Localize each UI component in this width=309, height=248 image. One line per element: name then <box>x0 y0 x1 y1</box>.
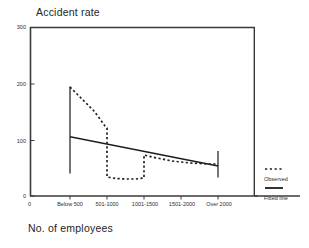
chart-canvas <box>0 0 309 248</box>
series-observed <box>70 87 218 179</box>
accident-rate-chart: Accident rate No. of employees 300 200 1… <box>0 0 309 248</box>
